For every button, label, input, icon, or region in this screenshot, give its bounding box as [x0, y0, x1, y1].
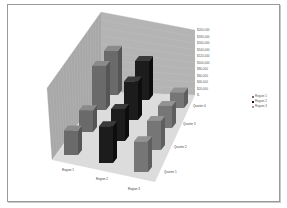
bar	[92, 61, 110, 110]
x-category-label: Region 3	[128, 187, 140, 191]
y-tick-label: $180,000	[197, 35, 210, 39]
legend-swatch	[252, 96, 254, 98]
legend: Region 1Region 2Region 3	[252, 94, 267, 109]
y-tick-label: $20,000	[197, 87, 208, 91]
y-tick-label: $100,000	[197, 61, 210, 65]
x-category-label: Region 2	[96, 177, 108, 181]
legend-swatch	[252, 101, 254, 103]
legend-label: Region 3	[255, 104, 267, 109]
x-category-label: Region 1	[62, 168, 74, 172]
depth-category-label: Quarter 1	[164, 170, 177, 174]
bar	[134, 136, 152, 172]
y-tick-label: $140,000	[197, 48, 210, 52]
y-tick-label: $60,000	[197, 74, 208, 78]
y-tick-label: $160,000	[197, 41, 210, 45]
y-tick-label: $80,000	[197, 67, 208, 71]
depth-category-label: Quarter 4	[193, 104, 206, 108]
y-tick-label: $120,000	[197, 54, 210, 58]
y-tick-label: $40,000	[197, 80, 208, 84]
bar	[64, 125, 82, 155]
depth-category-label: Quarter 2	[174, 145, 187, 149]
y-axis-ticks: $200,000$180,000$160,000$140,000$120,000…	[197, 28, 210, 97]
y-tick-label: $200,000	[197, 28, 210, 32]
bar	[99, 121, 117, 163]
legend-item: Region 3	[252, 104, 267, 109]
y-tick-label: $-	[197, 93, 200, 97]
depth-category-label: Quarter 3	[183, 122, 196, 126]
chart-plot: $200,000$180,000$160,000$140,000$120,000…	[0, 0, 287, 208]
legend-swatch	[252, 106, 254, 108]
